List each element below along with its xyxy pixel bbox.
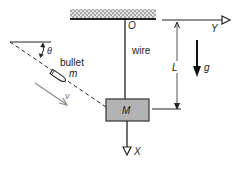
bullet-icon bbox=[50, 69, 67, 83]
velocity-arrow-icon bbox=[35, 83, 67, 105]
angle-arc-icon bbox=[39, 43, 45, 58]
bullet-mass-label: m bbox=[69, 68, 77, 79]
y-axis bbox=[162, 16, 230, 24]
wire-label: wire bbox=[131, 45, 151, 56]
x-axis bbox=[123, 121, 131, 155]
gravity-label: g bbox=[204, 62, 210, 73]
gravity-arrow-icon bbox=[193, 40, 201, 77]
length-dimension bbox=[152, 22, 183, 109]
bullet-label: bullet bbox=[60, 57, 84, 68]
y-axis-arrow-icon bbox=[222, 16, 230, 24]
origin-label: O bbox=[128, 20, 136, 31]
x-axis-arrow-icon bbox=[123, 147, 131, 155]
x-axis-label: X bbox=[133, 146, 141, 157]
velocity-label: v bbox=[65, 91, 70, 101]
length-label: L bbox=[172, 62, 178, 73]
ceiling bbox=[70, 9, 156, 19]
angle-label: θ bbox=[47, 46, 52, 56]
block-mass-label: M bbox=[122, 105, 131, 116]
y-axis-label: Y bbox=[211, 23, 219, 34]
ballistic-pendulum-diagram: O wire Y L g M X θ bullet m bbox=[0, 0, 239, 171]
